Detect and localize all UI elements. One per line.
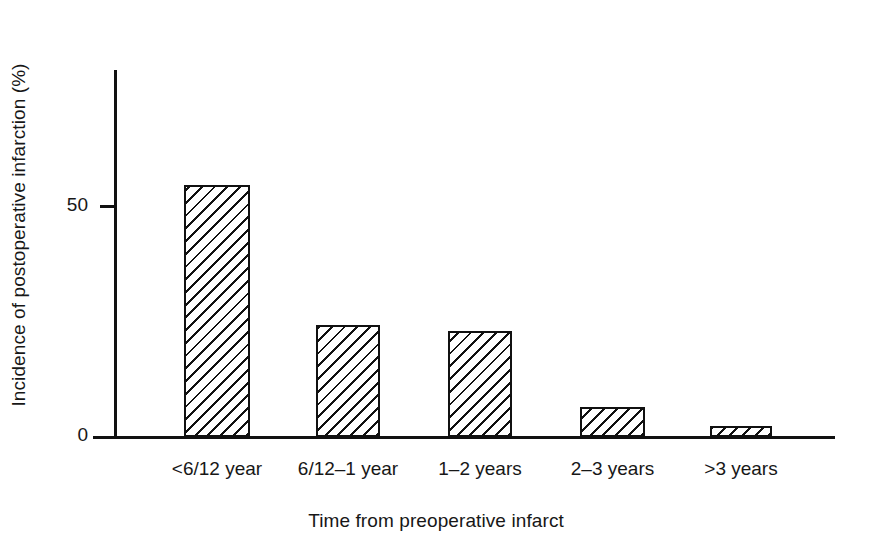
y-tick-mark-50 bbox=[100, 205, 115, 208]
plot-area bbox=[114, 70, 835, 437]
bar-2 bbox=[448, 331, 512, 437]
x-axis-title: Time from preoperative infarct bbox=[0, 510, 872, 532]
bar-0 bbox=[184, 185, 250, 437]
bar-4 bbox=[710, 426, 772, 437]
bar-1 bbox=[316, 325, 380, 437]
bar-3 bbox=[580, 407, 645, 437]
y-tick-mark-0 bbox=[93, 436, 115, 439]
y-tick-label-0: 0 bbox=[28, 424, 88, 446]
y-axis-title: Incidence of postoperative infarction (%… bbox=[8, 15, 50, 455]
x-tick-label-4: >3 years bbox=[651, 458, 831, 480]
y-tick-label-50: 50 bbox=[28, 194, 88, 216]
bar-chart: Incidence of postoperative infarction (%… bbox=[0, 0, 872, 556]
